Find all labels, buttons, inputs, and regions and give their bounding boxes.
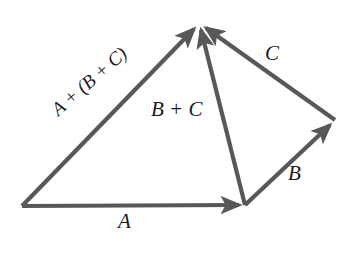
- vector-label-c: C: [265, 43, 279, 64]
- vector-arrow-a: [22, 205, 239, 206]
- vector-label-a: A: [118, 211, 131, 232]
- vector-label-b: B: [288, 163, 301, 184]
- vector-diagram-figure: A B C B + C A + (B + C): [0, 0, 348, 262]
- vector-arrow-b-plus-c: [201, 30, 245, 205]
- vector-diagram-canvas: [0, 0, 348, 262]
- vector-label-b-plus-c: B + C: [151, 99, 203, 120]
